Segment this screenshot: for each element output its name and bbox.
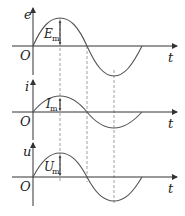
t-label-2: t (168, 116, 174, 131)
current-amplitude-sub: m (50, 104, 58, 113)
i-axis-label: i (25, 79, 29, 94)
panel-current: i I m O t (12, 79, 177, 140)
origin-label-2: O (20, 114, 31, 129)
panel-emf: e E m O t (12, 7, 177, 76)
t-label-3: t (168, 181, 174, 196)
waveform-diagram: e E m O t i I m O t u U m O t (0, 0, 185, 216)
emf-amplitude-sub: m (52, 34, 60, 43)
panel-voltage: u U m O t (12, 143, 177, 206)
voltage-amplitude-sub: m (52, 167, 60, 176)
origin-label-3: O (20, 179, 31, 194)
origin-label-1: O (20, 48, 31, 63)
e-axis-label: e (24, 7, 32, 22)
u-axis-label: u (23, 144, 31, 159)
t-label-1: t (168, 50, 174, 65)
